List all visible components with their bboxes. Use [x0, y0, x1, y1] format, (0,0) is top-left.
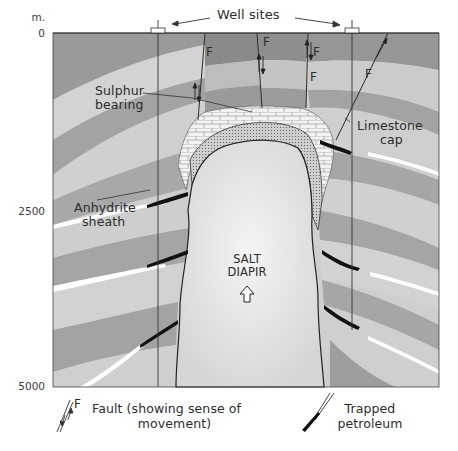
legend-fault-symbol-label: F [74, 397, 81, 411]
depth-unit-label: m. [5, 11, 45, 23]
fault-marker-2: F [263, 35, 270, 49]
depth-tick-2500: 2500 [5, 205, 45, 217]
depth-tick-5000: 5000 [5, 380, 45, 392]
diagram-canvas: m. 0 2500 5000 Well sites Sulphur bearin… [0, 0, 458, 451]
fault-marker-3: F [313, 45, 320, 59]
salt-label-line1: SALT [217, 252, 277, 266]
salt-label-line2: DIAPIR [217, 265, 277, 279]
legend-fault-line1: Fault (showing sense of [92, 402, 241, 416]
fault-marker-1: F [206, 45, 213, 59]
anhydrite-label-line1: Anhydrite [74, 201, 136, 215]
fault-marker-4: F [310, 70, 317, 84]
legend-petroleum-line1: Trapped [330, 402, 410, 416]
depth-tick-0: 0 [5, 27, 45, 39]
legend-fault-line2: movement) [92, 417, 257, 431]
limestone-label-line1: Limestone [357, 119, 423, 133]
anhydrite-label-line2: sheath [82, 215, 125, 229]
limestone-label-line2: cap [380, 133, 403, 147]
sulphur-label-line1: Sulphur [95, 84, 144, 98]
fault-marker-5: F [365, 67, 372, 81]
cross-section-svg [0, 0, 458, 451]
fault-legend-symbol [57, 400, 73, 432]
legend-petroleum-line2: petroleum [330, 417, 410, 431]
well-sites-label: Well sites [217, 8, 280, 22]
sulphur-label-line2: bearing [95, 98, 143, 112]
